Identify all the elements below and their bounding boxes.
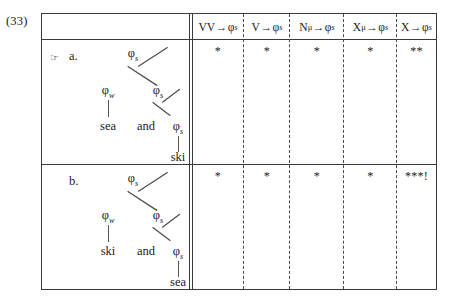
- constraint-header-x-mu-phi-s: Xμ→φs: [344, 14, 397, 40]
- tree-branch-root-right-a: [138, 47, 168, 67]
- tree-branch-inner-left-a: [152, 102, 170, 116]
- constraint-header-x-phi-s: X→φs: [397, 14, 436, 40]
- tree-node-inner-a: φs: [173, 119, 183, 136]
- constraint-header-vv-phi-s: VV→φs: [193, 14, 243, 40]
- tree-node-left-a: φw: [102, 83, 115, 100]
- tree-leaf-2-b: and: [137, 244, 155, 259]
- constraint-columns: VV→φs * * V→φs * * Nμ→φs * * Xμ→φs * *: [193, 14, 436, 289]
- tree-leaf-1-b: ski: [101, 244, 116, 259]
- tree-branch-inner-left-b: [152, 227, 170, 241]
- tree-branch-inner-right-a: [162, 89, 180, 103]
- constraint-column-x-mu-phi-s[interactable]: Xμ→φs * *: [343, 14, 397, 289]
- violation-a-vv-phi-s: *: [193, 44, 243, 59]
- tree-branch-root-right-b: [138, 172, 168, 192]
- tree-node-right-b: φs: [153, 208, 163, 225]
- tree-node-inner-b: φs: [173, 244, 183, 261]
- ot-tableau: ☞ a. φs φw φs sea and φs ski: [41, 13, 437, 290]
- tree-branch-inner-right-b: [162, 214, 180, 228]
- constraint-header-v-phi-s: V→φs: [244, 14, 290, 40]
- constraint-header-n-mu-phi-s: Nμ→φs: [290, 14, 344, 40]
- violation-b-v-phi-s: *: [244, 169, 290, 184]
- tree-node-right-a: φs: [153, 83, 163, 100]
- constraint-column-v-phi-s[interactable]: V→φs * *: [243, 14, 290, 289]
- violation-a-x-mu-phi-s: *: [344, 44, 397, 59]
- violation-b-x-phi-s: ***!: [397, 169, 436, 184]
- violation-a-v-phi-s: *: [244, 44, 290, 59]
- example-number: (33): [6, 14, 28, 29]
- tree-node-left-b: φw: [102, 208, 115, 225]
- violation-a-x-phi-s: **: [397, 44, 436, 59]
- constraint-column-x-phi-s[interactable]: X→φs ** ***!: [396, 14, 436, 289]
- violation-b-n-mu-phi-s: *: [290, 169, 344, 184]
- tree-leaf-3-b: sea: [170, 275, 186, 290]
- constraint-column-n-mu-phi-s[interactable]: Nμ→φs * *: [289, 14, 344, 289]
- tree-node-root-b: φs: [128, 171, 138, 188]
- candidate-row-a[interactable]: ☞ a. φs φw φs sea and φs ski: [42, 40, 189, 164]
- tree-leaf-1-a: sea: [100, 119, 116, 134]
- violation-b-vv-phi-s: *: [193, 169, 243, 184]
- tree-leaf-2-a: and: [137, 119, 155, 134]
- tree-stem-left-b: [108, 225, 109, 242]
- prosodic-tree-a: φs φw φs sea and φs ski: [42, 40, 189, 164]
- prosodic-tree-b: φs φw φs ski and φs sea: [42, 165, 189, 291]
- tree-leaf-3-a: ski: [171, 150, 186, 165]
- candidate-row-b[interactable]: b. φs φw φs ski and φs sea: [42, 165, 189, 291]
- tree-node-root-a: φs: [128, 46, 138, 63]
- violation-b-x-mu-phi-s: *: [344, 169, 397, 184]
- constraint-column-vv-phi-s[interactable]: VV→φs * *: [193, 14, 243, 289]
- tree-stem-left-a: [108, 100, 109, 117]
- violation-a-n-mu-phi-s: *: [290, 44, 344, 59]
